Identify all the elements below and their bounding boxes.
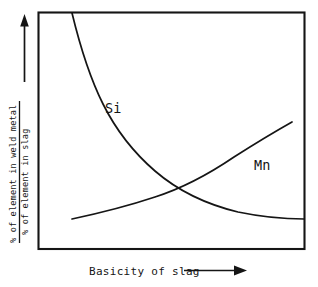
x-axis-label: Basicity of slag bbox=[89, 265, 200, 278]
curve-label-si: Si bbox=[105, 100, 122, 116]
curve-si bbox=[72, 13, 304, 219]
chart-canvas: Si Mn % of element in weld metal % of el… bbox=[0, 0, 318, 287]
plot-frame bbox=[39, 13, 305, 250]
chart-figure: Si Mn % of element in weld metal % of el… bbox=[0, 0, 318, 287]
y-axis-label: % of element in weld metal % of element … bbox=[8, 101, 30, 243]
y-axis-label-denominator: % of element in slag bbox=[20, 129, 30, 235]
curve-label-mn: Mn bbox=[254, 157, 271, 173]
arrow-up-icon bbox=[20, 14, 29, 82]
y-axis-label-numerator: % of element in weld metal bbox=[8, 105, 18, 243]
